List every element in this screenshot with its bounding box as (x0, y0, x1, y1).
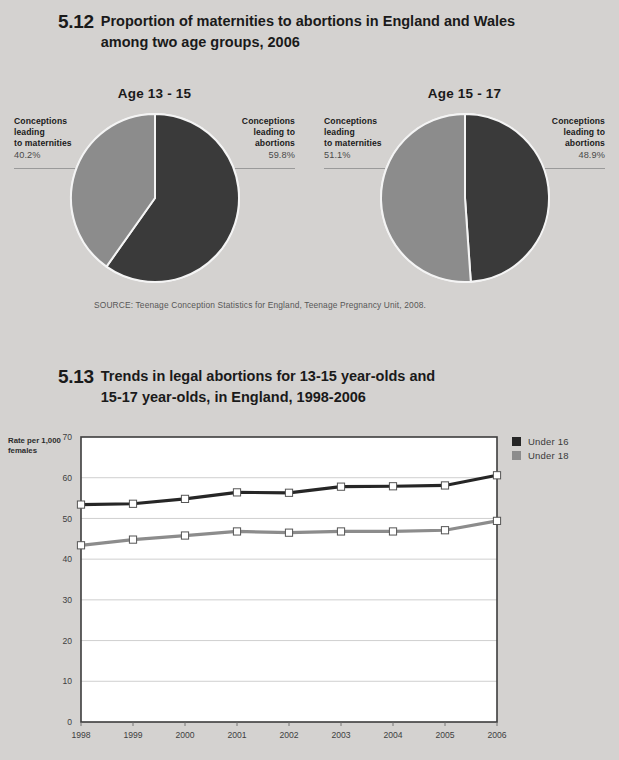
pie-label-maternities-line2: leading (324, 127, 355, 137)
pie-label-maternities: Conceptions leading to maternities 40.2% (14, 116, 72, 161)
data-point-marker (493, 472, 500, 479)
pie-label-maternities-line1: Conceptions (324, 116, 377, 126)
pie-label-abortions-line3: abortions (255, 138, 295, 148)
pie-panel-caption: Age 13 - 15 (0, 86, 309, 101)
pie-label-abortions: Conceptions leading to abortions 48.9% (552, 116, 605, 161)
y-tick-label: 20 (62, 636, 72, 646)
data-point-marker (389, 528, 396, 535)
pie-chart-area: Age 13 - 15 Conceptions leading to mater… (0, 86, 619, 286)
figure-513-title-line1: Trends in legal abortions for 13-15 year… (101, 366, 435, 387)
figure-512-number: 5.12 (58, 11, 101, 32)
figure-512-title-line2: among two age groups, 2006 (101, 32, 515, 53)
pie-label-abortions-line2: leading to (253, 127, 295, 137)
figure-513-number: 5.13 (58, 366, 101, 387)
pie-label-maternities-line3: to maternities (324, 138, 382, 148)
data-point-marker (285, 529, 292, 536)
data-point-marker (181, 532, 188, 539)
pie-label-maternities: Conceptions leading to maternities 51.1% (324, 116, 382, 161)
y-tick-label: 30 (62, 595, 72, 605)
y-tick-label: 60 (62, 473, 72, 483)
pie-panel-age-15-17: Age 15 - 17 Conceptions leading to mater… (310, 86, 619, 286)
pie-panel-age-13-15: Age 13 - 15 Conceptions leading to mater… (0, 86, 309, 286)
data-point-marker (389, 483, 396, 490)
data-point-marker (181, 495, 188, 502)
pie-slice (465, 114, 549, 282)
pie-label-abortions-line1: Conceptions (242, 116, 295, 126)
x-tick-label: 2000 (175, 730, 194, 740)
data-point-marker (441, 482, 448, 489)
y-tick-label: 70 (62, 432, 72, 442)
pie-slice (381, 114, 471, 282)
x-tick-label: 2003 (331, 730, 350, 740)
pie-label-abortions: Conceptions leading to abortions 59.8% (242, 116, 295, 161)
x-tick-label: 2004 (383, 730, 402, 740)
y-tick-label: 10 (62, 676, 72, 686)
pie-chart-age-15-17 (379, 112, 551, 284)
x-tick-label: 2002 (279, 730, 298, 740)
pie-value-maternities: 40.2% (14, 150, 72, 161)
figure-513-heading: 5.13 Trends in legal abortions for 13-15… (58, 366, 435, 408)
data-point-marker (337, 483, 344, 490)
line-chart-area: Rate per 1,000 females Under 16 Under 18… (0, 428, 619, 758)
y-tick-label: 40 (62, 554, 72, 564)
pie-svg (379, 112, 551, 284)
line-plot-svg: 0102030405060701998199920002001200220032… (0, 428, 619, 758)
pie-value-maternities: 51.1% (324, 150, 382, 161)
x-tick-label: 2001 (227, 730, 246, 740)
figure-512-source: SOURCE: Teenage Conception Statistics fo… (94, 300, 426, 310)
y-tick-label: 0 (67, 717, 72, 727)
data-point-marker (493, 517, 500, 524)
data-point-marker (77, 501, 84, 508)
pie-label-abortions-line2: leading to (563, 127, 605, 137)
pie-label-maternities-line3: to maternities (14, 138, 72, 148)
data-point-marker (337, 528, 344, 535)
data-point-marker (129, 536, 136, 543)
figure-512-title-line1: Proportion of maternities to abortions i… (101, 11, 515, 32)
pie-panel-caption: Age 15 - 17 (310, 86, 619, 101)
data-point-marker (285, 489, 292, 496)
x-tick-label: 1999 (123, 730, 142, 740)
pie-value-abortions: 48.9% (552, 150, 605, 161)
figure-513-title-line2: 15-17 year-olds, in England, 1998-2006 (101, 387, 435, 408)
x-tick-label: 2005 (435, 730, 454, 740)
pie-svg (69, 112, 241, 284)
x-tick-label: 2006 (487, 730, 506, 740)
plot-background (81, 437, 497, 722)
data-point-marker (441, 527, 448, 534)
data-point-marker (129, 500, 136, 507)
pie-chart-age-13-15 (69, 112, 241, 284)
x-tick-label: 1998 (71, 730, 90, 740)
pie-value-abortions: 59.8% (242, 150, 295, 161)
pie-label-maternities-line1: Conceptions (14, 116, 67, 126)
pie-label-abortions-line1: Conceptions (552, 116, 605, 126)
data-point-marker (233, 489, 240, 496)
data-point-marker (77, 542, 84, 549)
y-tick-label: 50 (62, 514, 72, 524)
pie-label-abortions-line3: abortions (565, 138, 605, 148)
figure-512-heading: 5.12 Proportion of maternities to aborti… (58, 11, 515, 53)
data-point-marker (233, 528, 240, 535)
pie-label-maternities-line2: leading (14, 127, 45, 137)
